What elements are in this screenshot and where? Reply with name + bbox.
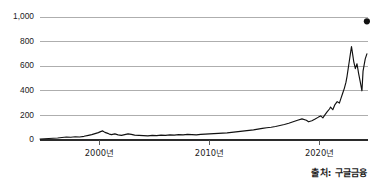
x-axis-tick-label: 2010년 — [195, 148, 224, 158]
chart-canvas: 02004006008001,000 2000년2010년2020년 — [0, 0, 371, 181]
y-axis-tick-label: 1,000 — [13, 11, 34, 21]
x-axis-ticks — [99, 140, 319, 145]
price-series-line — [40, 47, 367, 140]
x-axis-tick-label: 2020년 — [305, 148, 334, 158]
top-crop-strip — [0, 0, 371, 6]
x-axis-labels: 2000년2010년2020년 — [85, 148, 334, 158]
y-axis-tick-label: 400 — [20, 85, 34, 95]
gridlines — [40, 17, 368, 140]
endpoint-marker-dot — [364, 18, 370, 24]
y-axis-tick-label: 200 — [20, 110, 34, 120]
source-attribution: 출처: 구글금융 — [311, 166, 367, 179]
y-axis-tick-label: 600 — [20, 60, 34, 70]
stock-price-line-chart: 02004006008001,000 2000년2010년2020년 출처: 구… — [0, 0, 371, 181]
y-axis-tick-label: 800 — [20, 36, 34, 46]
x-axis-tick-label: 2000년 — [85, 148, 114, 158]
y-axis-tick-label: 0 — [29, 134, 34, 144]
y-axis-labels: 02004006008001,000 — [13, 11, 34, 144]
